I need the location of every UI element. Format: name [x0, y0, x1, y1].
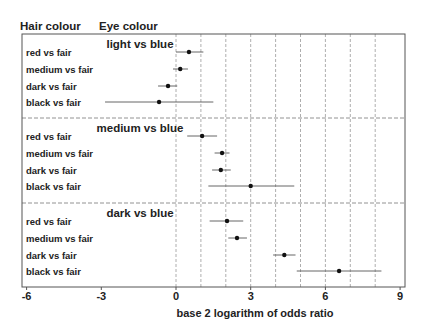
- groups-layer: light vs bluered vs fairmedium vs fairda…: [26, 38, 381, 277]
- group-title: dark vs blue: [106, 207, 173, 219]
- row-label: black vs fair: [26, 181, 81, 192]
- x-axis: -6-30369: [22, 287, 403, 302]
- group-title: light vs blue: [106, 38, 173, 50]
- row-label: medium vs fair: [26, 233, 93, 244]
- x-tick-label: 6: [322, 290, 328, 302]
- point-estimate: [178, 67, 182, 71]
- group-light-vs-blue: light vs bluered vs fairmedium vs fairda…: [26, 38, 213, 108]
- x-tick-label: -3: [96, 290, 106, 302]
- x-tick-label: 0: [173, 290, 179, 302]
- point-estimate: [282, 253, 286, 257]
- row-label: dark vs fair: [26, 250, 77, 261]
- row-label: dark vs fair: [26, 165, 77, 176]
- x-tick-label: -6: [22, 290, 32, 302]
- x-axis-label: base 2 logarithm of odds ratio: [176, 307, 333, 319]
- row-label: red vs fair: [26, 47, 72, 58]
- point-estimate: [157, 100, 161, 104]
- point-estimate: [337, 269, 341, 273]
- group-medium-vs-blue: medium vs bluered vs fairmedium vs faird…: [26, 122, 294, 192]
- row-label: medium vs fair: [26, 64, 93, 75]
- group-dark-vs-blue: dark vs bluered vs fairmedium vs fairdar…: [26, 207, 381, 277]
- point-estimate: [200, 134, 204, 138]
- point-estimate: [220, 151, 224, 155]
- point-estimate: [235, 236, 239, 240]
- row-label: black vs fair: [26, 97, 81, 108]
- point-estimate: [249, 184, 253, 188]
- row-label: dark vs fair: [26, 81, 77, 92]
- x-tick-label: 3: [248, 290, 254, 302]
- point-estimate: [187, 50, 191, 54]
- point-estimate: [219, 168, 223, 172]
- group-title: medium vs blue: [97, 122, 184, 134]
- header-eye-colour: Eye colour: [99, 20, 158, 32]
- header-hair-colour: Hair colour: [20, 20, 81, 32]
- row-label: medium vs fair: [26, 148, 93, 159]
- row-label: red vs fair: [26, 131, 72, 142]
- row-label: black vs fair: [26, 266, 81, 277]
- x-tick-label: 9: [397, 290, 403, 302]
- point-estimate: [166, 84, 170, 88]
- point-estimate: [225, 219, 229, 223]
- forest-plot: Hair colour Eye colour light vs bluered …: [0, 0, 425, 329]
- row-label: red vs fair: [26, 216, 72, 227]
